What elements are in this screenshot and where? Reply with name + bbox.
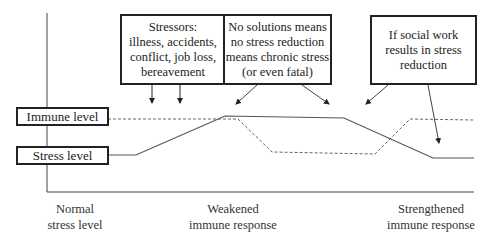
x-label-line: immune response bbox=[376, 217, 486, 233]
x-label-line: Normal bbox=[35, 201, 115, 217]
callout-line: illness, accidents, bbox=[129, 35, 217, 50]
callout-line: If social work bbox=[389, 28, 458, 43]
x-label-strengthened: Strengthened immune response bbox=[376, 201, 486, 233]
callout-line: bereavement bbox=[141, 65, 205, 80]
callout-line: conflict, job loss, bbox=[130, 50, 216, 65]
callout-line: means chronic stress bbox=[226, 50, 329, 65]
stress-level-line bbox=[108, 116, 474, 158]
immune-level-text: Immune level bbox=[27, 109, 99, 124]
callout-line: no stress reduction bbox=[231, 35, 325, 50]
callout-line: Stressors: bbox=[149, 20, 198, 35]
x-label-line: Strengthened bbox=[376, 201, 486, 217]
x-label-line: stress level bbox=[35, 217, 115, 233]
no-solutions-callout: No solutions means no stress reduction m… bbox=[223, 14, 332, 85]
callout-line: results in stress bbox=[385, 43, 461, 58]
callout-line: (or even fatal) bbox=[242, 65, 313, 80]
stress-level-text: Stress level bbox=[33, 148, 93, 163]
x-label-weakened: Weakened immune response bbox=[178, 201, 288, 233]
no-solutions-arrow-right bbox=[302, 85, 329, 104]
social-work-callout: If social work results in stress reducti… bbox=[370, 15, 477, 85]
social-work-arrow-right bbox=[428, 85, 439, 143]
callout-line: reduction bbox=[400, 58, 447, 73]
no-solutions-arrow-left bbox=[236, 85, 257, 104]
x-label-line: immune response bbox=[178, 217, 288, 233]
immune-level-label: Immune level bbox=[16, 107, 109, 126]
stress-level-label: Stress level bbox=[16, 146, 109, 165]
callout-line: No solutions means bbox=[228, 20, 327, 35]
x-label-line: Weakened bbox=[178, 201, 288, 217]
x-label-normal: Normal stress level bbox=[35, 201, 115, 233]
social-work-arrow-left bbox=[366, 85, 388, 104]
stressors-callout: Stressors: illness, accidents, conflict,… bbox=[120, 14, 226, 85]
immune-level-line bbox=[108, 119, 474, 154]
